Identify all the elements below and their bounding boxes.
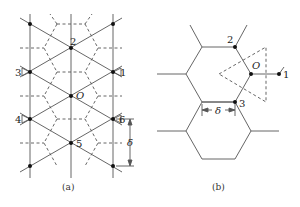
node-label-3: 3 [15, 67, 21, 78]
panel-b [157, 25, 284, 159]
delta-label: δ [127, 137, 133, 148]
node-label-4: 4 [15, 114, 21, 125]
origin-label-b: O [252, 60, 260, 71]
arrowhead-icon [128, 160, 132, 166]
dashed-triangle [219, 47, 266, 102]
figure-canvas: 2 3 1 O 4 6 5 δ (a) 2 O 1 [0, 0, 300, 207]
caption-b: (b) [212, 182, 225, 192]
node-label-2-b: 2 [227, 34, 233, 45]
node-label-6: 6 [119, 114, 125, 125]
node-label-2: 2 [70, 36, 76, 47]
node-label-3-b: 3 [239, 98, 245, 109]
delta-label-b: δ [215, 105, 221, 116]
arrowhead-icon [128, 119, 132, 125]
node-label-1: 1 [120, 67, 126, 78]
origin-label: O [76, 90, 84, 101]
hexagon-upper [186, 47, 251, 102]
node-label-1-b: 1 [283, 69, 289, 80]
node-label-5: 5 [76, 138, 82, 149]
caption-a: (a) [62, 182, 74, 192]
panel-b-nodes [233, 45, 281, 104]
